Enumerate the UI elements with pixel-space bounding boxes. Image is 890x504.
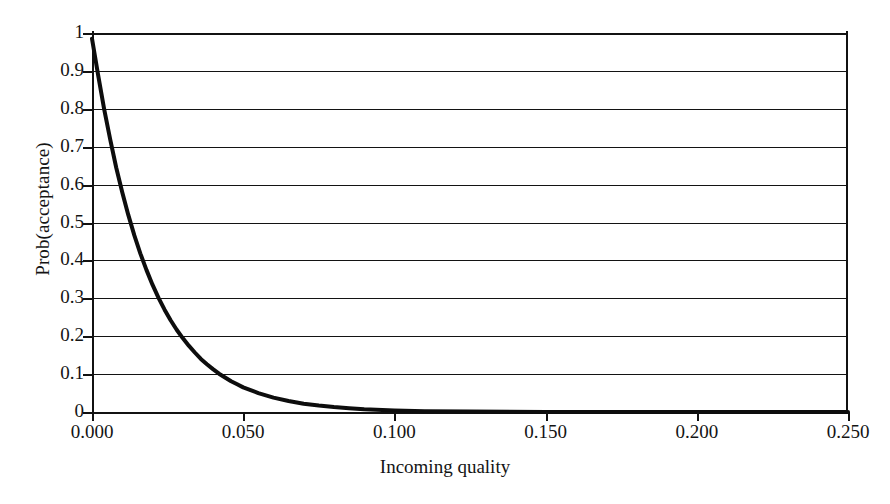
x-tick-label: 0.250	[793, 421, 890, 443]
x-tick-label: 0.100	[339, 421, 449, 443]
y-tick-mark	[83, 260, 92, 262]
y-tick-mark	[83, 147, 92, 149]
y-tick-mark	[83, 412, 92, 414]
x-tick-label: 0.150	[491, 421, 601, 443]
x-axis-title: Incoming quality	[0, 456, 890, 478]
y-tick-mark	[83, 71, 92, 73]
y-tick-label: 0.2	[28, 325, 84, 344]
x-tick-mark	[848, 412, 850, 421]
x-tick-mark	[394, 412, 396, 421]
y-tick-mark	[83, 109, 92, 111]
x-tick-mark	[243, 412, 245, 421]
oc-curve-line	[92, 33, 848, 412]
y-tick-label: 0.3	[28, 287, 84, 306]
y-tick-label: 0.8	[28, 98, 84, 117]
y-tick-mark	[83, 336, 92, 338]
y-tick-mark	[83, 33, 92, 35]
x-tick-label: 0.050	[188, 421, 298, 443]
x-tick-mark	[697, 412, 699, 421]
series-path	[92, 39, 848, 412]
y-tick-label: 0.4	[28, 249, 84, 268]
x-tick-mark	[92, 412, 94, 421]
y-tick-label: 0.6	[28, 174, 84, 193]
y-tick-mark	[83, 223, 92, 225]
y-tick-label: 1	[28, 22, 84, 41]
y-tick-label: 0.9	[28, 60, 84, 79]
x-tick-mark	[546, 412, 548, 421]
y-tick-label: 0.7	[28, 136, 84, 155]
oc-curve-figure: Prob(acceptance) 00.10.20.30.40.50.60.70…	[0, 0, 890, 504]
x-tick-label: 0.000	[37, 421, 147, 443]
y-tick-label: 0.5	[28, 212, 84, 231]
y-tick-mark	[83, 298, 92, 300]
y-tick-label: 0.1	[28, 363, 84, 382]
y-tick-mark	[83, 185, 92, 187]
x-tick-label: 0.200	[642, 421, 752, 443]
y-tick-mark	[83, 374, 92, 376]
y-tick-label: 0	[28, 401, 84, 420]
